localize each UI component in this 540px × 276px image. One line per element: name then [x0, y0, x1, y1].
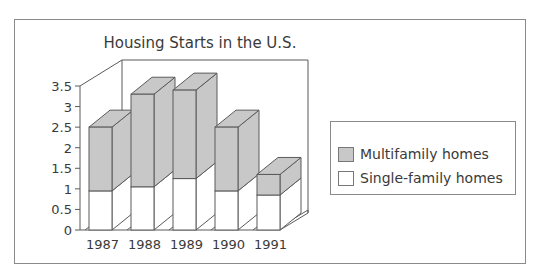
legend-swatch-single-family [338, 171, 354, 186]
y-tick-label: 0 [64, 223, 72, 238]
bar-segment-multifamily [131, 94, 154, 187]
bar-segment-multifamily [257, 174, 280, 195]
bar-segment-single-family [89, 191, 112, 230]
x-tick-label: 1987 [86, 237, 119, 252]
y-tick-label: 3.5 [51, 79, 72, 94]
legend-item-multifamily: Multifamily homes [338, 146, 489, 162]
bar-segment-single-family [257, 195, 280, 230]
bars [85, 73, 301, 230]
bar-segment-single-family [215, 191, 238, 230]
legend-swatch-multifamily [338, 147, 354, 162]
bar-segment-multifamily [215, 127, 238, 191]
y-tick-label: 0.5 [51, 202, 72, 217]
bar-1991 [253, 157, 301, 230]
y-tick-label: 2.5 [51, 120, 72, 135]
bar-1989 [169, 73, 217, 230]
y-tick-label: 1 [64, 182, 72, 197]
legend-label: Single-family homes [360, 170, 503, 186]
y-tick-label: 1.5 [51, 161, 72, 176]
legend-label: Multifamily homes [360, 146, 489, 162]
y-tick-label: 2 [64, 141, 72, 156]
bar-segment-multifamily [173, 90, 196, 178]
bar-1987 [85, 110, 133, 230]
bar-1990 [211, 110, 259, 230]
y-tick-label: 3 [64, 100, 72, 115]
legend: Multifamily homes Single-family homes [330, 121, 516, 195]
x-tick-label: 1991 [254, 237, 287, 252]
x-tick-label: 1990 [212, 237, 245, 252]
legend-item-single-family: Single-family homes [338, 170, 503, 186]
bar-segment-single-family [131, 187, 154, 230]
bar-segment-multifamily [89, 127, 112, 191]
x-tick-label: 1988 [128, 237, 161, 252]
bar-segment-single-family [173, 179, 196, 230]
x-tick-label: 1989 [170, 237, 203, 252]
bar-1988 [127, 77, 175, 230]
